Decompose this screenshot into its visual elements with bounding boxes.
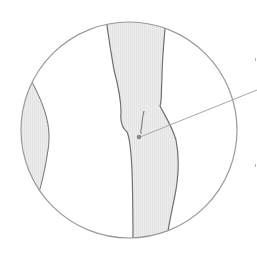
acupoint-marker	[137, 135, 142, 140]
side-limb	[10, 80, 49, 196]
edge-mark-bottom	[255, 164, 256, 167]
main-leg	[106, 18, 178, 245]
edge-mark-top	[255, 58, 256, 61]
diagram-stage: leg-knee-lateral-view	[0, 0, 257, 260]
leg-illustration	[0, 0, 257, 260]
